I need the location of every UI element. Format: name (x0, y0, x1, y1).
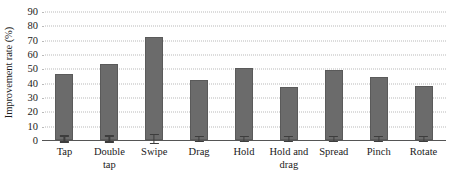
y-tick-label: 50 (28, 64, 39, 75)
x-tick-label: Hold and drag (266, 143, 311, 171)
x-tick-label: Hold (222, 143, 267, 159)
y-tick-label: 0 (33, 136, 38, 147)
bar[interactable] (370, 77, 388, 140)
y-tick-label: 20 (28, 107, 39, 118)
bar-slot (311, 12, 356, 140)
x-tick-label: Rotate (401, 143, 446, 159)
bar-slot (266, 12, 311, 140)
y-axis-title-text: Improvement rate (%) (4, 27, 15, 118)
bar[interactable] (55, 74, 73, 140)
bar-slot (42, 12, 87, 140)
x-tick-label: Double tap (87, 143, 132, 171)
x-tick-label: Swipe (132, 143, 177, 159)
error-bar (199, 136, 200, 142)
bar-slot (87, 12, 132, 140)
error-bar (243, 136, 244, 142)
y-tick-label: 30 (28, 93, 39, 104)
bars-layer (42, 12, 446, 140)
y-axis-tick-labels: 0102030405060708090 (18, 0, 40, 145)
y-tick-label: 80 (28, 21, 39, 32)
bar[interactable] (235, 68, 253, 140)
error-bar (333, 136, 334, 142)
bar[interactable] (415, 86, 433, 140)
bar-chart: Improvement rate (%) 0102030405060708090… (0, 0, 452, 181)
error-bar (288, 136, 289, 142)
y-tick-label: 60 (28, 50, 39, 61)
bar-slot (177, 12, 222, 140)
y-tick-label: 40 (28, 78, 39, 89)
x-tick-label: Tap (42, 143, 87, 159)
y-tick-label: 10 (28, 121, 39, 132)
bar[interactable] (280, 87, 298, 140)
bar[interactable] (145, 37, 163, 140)
plot-area (42, 12, 446, 141)
x-axis-tick-labels: TapDouble tapSwipeDragHoldHold and dragS… (42, 143, 446, 181)
y-axis-title: Improvement rate (%) (0, 0, 18, 145)
bar[interactable] (100, 64, 118, 140)
bar-slot (401, 12, 446, 140)
error-bar (109, 135, 110, 142)
x-tick-label: Pinch (356, 143, 401, 159)
error-bar (64, 135, 65, 142)
error-bar (378, 136, 379, 142)
error-bar (423, 136, 424, 142)
bar-slot (356, 12, 401, 140)
x-tick-label: Drag (177, 143, 222, 159)
bar[interactable] (190, 80, 208, 140)
x-tick-label: Spread (311, 143, 356, 159)
y-tick-label: 70 (28, 35, 39, 46)
bar[interactable] (325, 70, 343, 140)
bar-slot (132, 12, 177, 140)
bar-slot (222, 12, 267, 140)
y-tick-label: 90 (28, 7, 39, 18)
